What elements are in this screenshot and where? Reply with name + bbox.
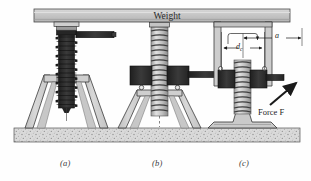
figure-screw-jacks: Weight dc a Force F (a) (b) (c) <box>0 0 311 181</box>
dimension-a <box>243 28 302 58</box>
jack-c-lever-stub <box>266 75 284 81</box>
jack-a-swivel-cap <box>54 22 79 30</box>
jack-a-lever-handle <box>76 32 116 38</box>
jack-c <box>208 22 302 128</box>
jack-b-screw <box>150 23 170 128</box>
diagram-canvas <box>0 0 311 181</box>
weight-beam <box>34 9 290 22</box>
jack-b <box>118 23 224 129</box>
jack-c-base-plate <box>208 112 277 128</box>
force-arrow <box>270 83 296 105</box>
jack-c-screw <box>234 60 251 114</box>
jack-a <box>25 22 116 128</box>
ground-band <box>14 128 300 142</box>
jack-a-screw <box>56 30 78 121</box>
